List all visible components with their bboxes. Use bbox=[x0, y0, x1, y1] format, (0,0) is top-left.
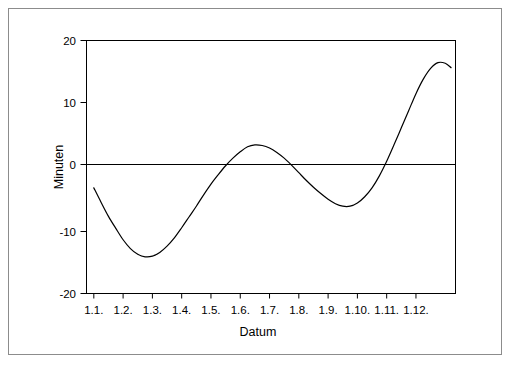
y-axis-title: Minuten bbox=[52, 145, 66, 190]
x-tick-label-1.6.: 1.6. bbox=[231, 304, 250, 316]
x-tick-label-1.8.: 1.8. bbox=[289, 304, 308, 316]
x-tick-label-1.1.: 1.1. bbox=[84, 304, 103, 316]
x-tick-label-1.9.: 1.9. bbox=[319, 304, 338, 316]
y-axis-ticks bbox=[81, 41, 87, 294]
x-tick-label-1.2.: 1.2. bbox=[114, 304, 133, 316]
x-axis-tick-labels: 1.1.1.2.1.3.1.4.1.5.1.6.1.7.1.8.1.9.1.10… bbox=[84, 304, 429, 316]
x-tick-label-1.7.: 1.7. bbox=[260, 304, 279, 316]
x-tick-label-1.11.: 1.11. bbox=[374, 304, 399, 316]
y-tick-label-20: 20 bbox=[63, 35, 76, 47]
y-tick-label-minus20: -20 bbox=[59, 288, 76, 300]
x-tick-label-1.4.: 1.4. bbox=[172, 304, 191, 316]
series-line-zeitgleichung bbox=[94, 62, 451, 257]
x-axis-title: Datum bbox=[240, 325, 277, 339]
x-tick-label-1.10.: 1.10. bbox=[345, 304, 371, 316]
x-tick-label-1.5.: 1.5. bbox=[201, 304, 220, 316]
y-tick-label-10: 10 bbox=[63, 97, 76, 109]
equation-of-time-chart: 20 10 0 -10 -20 Minuten 1.1.1.2.1.3.1.4.… bbox=[0, 0, 512, 365]
x-tick-label-1.3.: 1.3. bbox=[143, 304, 162, 316]
x-axis-ticks bbox=[94, 294, 416, 299]
x-tick-label-1.12.: 1.12. bbox=[403, 304, 429, 316]
y-tick-label-minus10: -10 bbox=[59, 226, 76, 238]
y-tick-label-0: 0 bbox=[70, 159, 76, 171]
figure-canvas: 20 10 0 -10 -20 Minuten 1.1.1.2.1.3.1.4.… bbox=[0, 0, 512, 365]
